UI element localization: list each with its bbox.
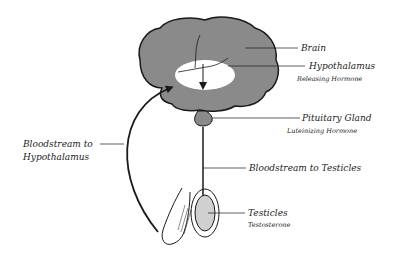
bloodstream-to-hypothalamus-arrow [127, 88, 170, 232]
genitals-illustration [162, 188, 219, 244]
brain-illustration [139, 17, 278, 126]
testosterone-label: Testosterone [248, 221, 291, 229]
pituitary-gland-label: Pituitary Gland [301, 113, 372, 123]
hypothalamus-label: Hypothalamus [308, 61, 375, 71]
brain-label: Brain [300, 43, 326, 53]
releasing-hormone-label: Releasing Hormone [296, 75, 362, 83]
hypothalamus-region [175, 60, 235, 90]
bloodstream-to-testicles-label: Bloodstream to Testicles [248, 163, 362, 173]
testicles-label: Testicles [248, 208, 288, 218]
luteinizing-hormone-label: Luteinizing Hormone [286, 127, 357, 135]
bloodstream-to-hypothalamus-label-line2: Hypothalamus [22, 152, 89, 162]
bloodstream-to-hypothalamus-label-line1: Bloodstream to [22, 139, 93, 149]
pituitary-gland [195, 111, 213, 126]
hormone-feedback-diagram: Brain Hypothalamus Releasing Hormone Pit… [0, 0, 400, 277]
